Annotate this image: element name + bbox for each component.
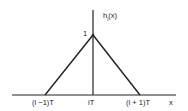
peak-point — [92, 34, 95, 37]
x-axis-label: x — [169, 99, 173, 107]
tick-label-left: (i −1)T — [32, 99, 54, 107]
tick-label-right: (i + 1)T — [126, 99, 150, 107]
function-label: hi(x) — [103, 12, 117, 22]
peak-value-label: 1 — [83, 30, 87, 38]
tick-label-center: iT — [88, 99, 94, 107]
hat-function-diagram — [0, 0, 188, 111]
